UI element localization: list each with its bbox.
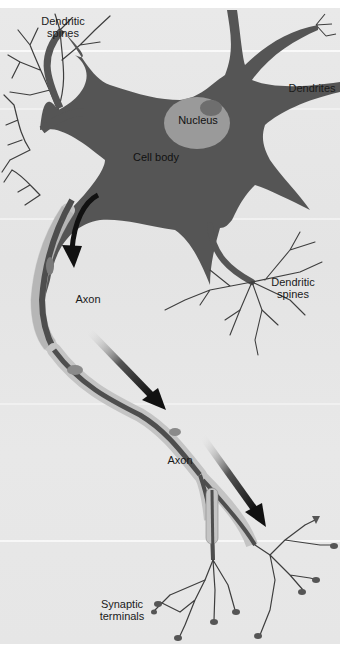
synaptic-terminals-right	[255, 520, 335, 635]
terminal-knobs-center	[151, 601, 240, 641]
schwann-nucleus	[46, 257, 54, 275]
cell-body	[40, 10, 340, 305]
schwann-nucleus	[169, 428, 181, 436]
label-dendritic-spines-top: Dendritic spines	[28, 15, 98, 39]
axon-upper	[38, 200, 72, 350]
label-axon-lower: Axon	[160, 454, 200, 466]
dendrite-tip-upper-right	[316, 14, 336, 36]
label-dendritic-spines-right: Dendritic spines	[258, 276, 328, 300]
axon-lower	[200, 475, 255, 560]
neuron-diagram: Dendritic spines Dendrites Nucleus Cell …	[0, 8, 340, 644]
label-synaptic-terminals: Synaptic terminals	[94, 598, 150, 622]
terminal-knobs-right	[254, 516, 338, 639]
synaptic-terminals-center	[155, 560, 235, 640]
label-axon-upper: Axon	[68, 293, 108, 305]
label-nucleus: Nucleus	[170, 114, 226, 126]
neuron-illustration	[0, 8, 340, 644]
label-dendrites: Dendrites	[284, 82, 340, 94]
schwann-nucleus	[67, 365, 83, 375]
label-cell-body: Cell body	[124, 151, 188, 163]
dendrite-branch	[47, 30, 62, 108]
